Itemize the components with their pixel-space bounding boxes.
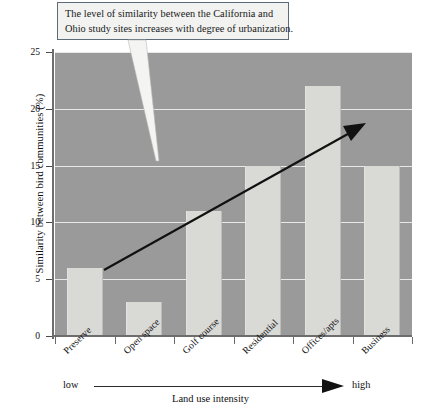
x-tick-mark bbox=[293, 337, 294, 344]
y-tick-label: 15 bbox=[14, 160, 40, 171]
x-tick-mark bbox=[115, 337, 116, 344]
intensity-low-label: low bbox=[63, 379, 78, 390]
x-tick-mark bbox=[174, 337, 175, 344]
y-tick-label: 0 bbox=[14, 330, 40, 341]
chart-figure: The level of similarity between the Cali… bbox=[0, 0, 421, 412]
bar-business bbox=[364, 166, 400, 336]
plot-area bbox=[55, 52, 412, 336]
x-tick-mark bbox=[353, 337, 354, 344]
gridline bbox=[55, 166, 412, 167]
y-tick-label: 5 bbox=[14, 273, 40, 284]
x-tick-mark bbox=[412, 337, 413, 344]
bar-offices-apts bbox=[305, 86, 341, 336]
y-tick-mark bbox=[46, 222, 52, 223]
y-tick-mark bbox=[46, 109, 52, 110]
x-axis-title: Land use intensity bbox=[0, 393, 421, 404]
callout-line-1: The level of similarity between the Cali… bbox=[65, 6, 282, 21]
gridline bbox=[55, 52, 412, 53]
y-tick-label: 25 bbox=[14, 46, 40, 57]
y-tick-mark bbox=[46, 279, 52, 280]
y-tick-mark bbox=[46, 336, 52, 337]
x-axis-line bbox=[52, 335, 412, 337]
y-tick-mark bbox=[46, 166, 52, 167]
intensity-high-label: high bbox=[352, 379, 370, 390]
y-tick-label: 10 bbox=[14, 216, 40, 227]
y-tick-mark bbox=[46, 52, 52, 53]
intensity-arrow-head-icon bbox=[322, 379, 344, 393]
y-tick-label: 20 bbox=[14, 103, 40, 114]
intensity-axis-line bbox=[94, 386, 326, 387]
x-tick-mark bbox=[234, 337, 235, 344]
callout-box: The level of similarity between the Cali… bbox=[57, 2, 289, 40]
bar-residential bbox=[245, 166, 281, 336]
bar-golf-course bbox=[186, 211, 222, 336]
y-axis-line bbox=[52, 49, 54, 339]
gridline bbox=[55, 109, 412, 110]
x-tick-mark bbox=[55, 337, 56, 344]
gridline bbox=[55, 222, 412, 223]
gridline bbox=[55, 279, 412, 280]
callout-line-2: Ohio study sites increases with degree o… bbox=[65, 21, 282, 36]
